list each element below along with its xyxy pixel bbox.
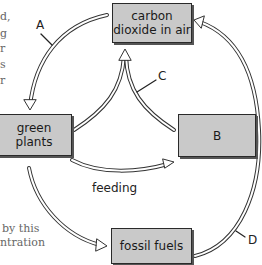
node-green-plants-line1: green — [16, 121, 53, 135]
edge-label-feeding: feeding — [92, 181, 137, 195]
node-fossil-fuels: fossil fuels — [111, 228, 192, 264]
node-b: B — [178, 114, 256, 157]
edge-label-c: C — [158, 69, 166, 83]
label-leader-d — [236, 231, 245, 237]
edge-label-a: A — [36, 18, 44, 32]
node-fossil-fuels-label: fossil fuels — [120, 239, 183, 253]
arrow-feeding — [72, 159, 174, 171]
label-leader-c — [137, 80, 156, 92]
node-green-plants: green plants — [0, 114, 72, 156]
arrow-c-right — [126, 56, 174, 130]
edge-label-d: D — [248, 233, 257, 247]
node-carbon-dioxide-line2: dioxide in air — [113, 23, 191, 37]
node-carbon-dioxide-line1: carbon — [113, 9, 191, 23]
label-leader-a — [41, 34, 52, 45]
arrow-c-left — [74, 56, 124, 130]
node-green-plants-line2: plants — [16, 135, 53, 149]
node-b-label: B — [213, 129, 221, 143]
arrow-c-head — [119, 49, 131, 60]
node-carbon-dioxide: carbon dioxide in air — [112, 3, 192, 43]
